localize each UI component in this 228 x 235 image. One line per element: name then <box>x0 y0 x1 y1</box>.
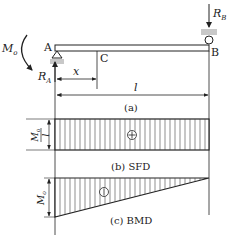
svg-text:Mo: Mo <box>35 191 47 206</box>
reaction-b-label: RB <box>212 7 226 22</box>
bmd-region <box>55 178 209 217</box>
dimension-x-label: x <box>73 65 80 78</box>
label-c: C <box>100 52 108 65</box>
bending-moment-diagram: Mo (c) BMD <box>35 178 209 226</box>
reaction-a-label: RA <box>37 70 51 85</box>
label-b: B <box>211 46 219 59</box>
bmd-value-label: Mo <box>35 191 47 206</box>
roller-support-b <box>201 29 217 44</box>
moment-label: Mo <box>1 42 17 57</box>
svg-text:Mo: Mo <box>30 128 41 142</box>
caption-a: (a) <box>124 102 138 113</box>
beam <box>55 45 209 51</box>
shear-force-diagram: Mo l (b) SFD <box>26 119 209 172</box>
pin-support-a <box>50 51 64 64</box>
svg-text:l: l <box>41 133 51 136</box>
caption-c: (c) BMD <box>110 215 152 226</box>
caption-b: (b) SFD <box>111 161 150 172</box>
beam-diagram: RB RA Mo A B C x l (a) <box>0 0 228 235</box>
label-a: A <box>43 41 53 54</box>
moment-arrow <box>22 35 32 70</box>
dimension-l-label: l <box>134 81 138 94</box>
sfd-value-label: Mo l <box>30 128 51 142</box>
